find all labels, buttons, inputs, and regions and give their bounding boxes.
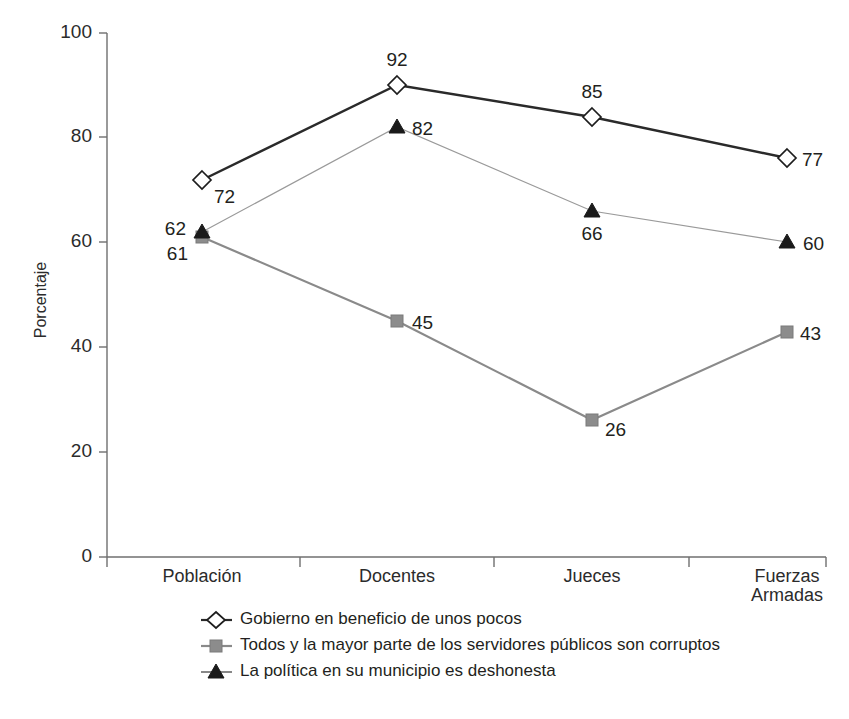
triangle-icon	[208, 664, 224, 678]
data-label-square-1: 45	[412, 312, 433, 333]
series-square-line	[202, 237, 787, 420]
y-axis: 100 80 60 40 20 0 Porcentaje	[32, 21, 107, 566]
data-label-square-2: 26	[605, 419, 626, 440]
data-label-diamond-0: 72	[214, 186, 235, 207]
x-tick-label-docentes: Docentes	[359, 566, 435, 586]
marker-diamond-3	[778, 149, 796, 167]
series-triangle	[194, 119, 795, 248]
y-tick-label-80: 80	[71, 125, 92, 146]
data-label-diamond-3: 77	[802, 149, 823, 170]
marker-triangle-1	[389, 119, 405, 133]
chart-canvas: 100 80 60 40 20 0 Porcentaje Población D…	[0, 0, 849, 719]
marker-triangle-2	[584, 203, 600, 217]
data-label-diamond-2: 85	[581, 81, 602, 102]
y-tick-label-20: 20	[71, 440, 92, 461]
line-chart: 100 80 60 40 20 0 Porcentaje Población D…	[0, 0, 849, 719]
legend-label-politica: La política en su municipio es deshonest…	[240, 661, 556, 680]
data-label-triangle-1: 82	[412, 118, 433, 139]
x-tick-label-fuerzas-armadas-line2: Armadas	[751, 585, 823, 605]
x-tick-label-jueces: Jueces	[563, 566, 620, 586]
series-diamond	[193, 76, 796, 189]
marker-diamond-1	[388, 76, 406, 94]
marker-square-1	[391, 315, 403, 327]
series-square	[196, 231, 793, 426]
data-labels: 72 92 85 77 61 45 26 43 62 82 66 60	[165, 49, 824, 440]
data-label-triangle-2: 66	[581, 223, 602, 244]
series-triangle-line	[202, 127, 787, 242]
data-label-square-0: 61	[167, 243, 188, 264]
marker-diamond-2	[583, 108, 601, 126]
legend-item-gobierno[interactable]: Gobierno en beneficio de unos pocos	[201, 609, 522, 628]
data-label-square-3: 43	[800, 323, 821, 344]
y-axis-title: Porcentaje	[32, 262, 49, 339]
y-tick-label-40: 40	[71, 335, 92, 356]
data-label-diamond-1: 92	[386, 49, 407, 70]
marker-square-2	[586, 414, 598, 426]
chart-legend: Gobierno en beneficio de unos pocos Todo…	[201, 609, 720, 680]
y-tick-label-60: 60	[71, 230, 92, 251]
x-axis: Población Docentes Jueces Fuerzas Armada…	[107, 557, 826, 605]
y-tick-label-100: 100	[60, 21, 92, 42]
legend-item-corruptos[interactable]: Todos y la mayor parte de los servidores…	[201, 635, 720, 654]
square-icon	[210, 640, 222, 652]
legend-label-corruptos: Todos y la mayor parte de los servidores…	[240, 635, 720, 654]
marker-diamond-0	[193, 171, 211, 189]
diamond-icon	[207, 612, 225, 628]
legend-item-politica[interactable]: La política en su municipio es deshonest…	[201, 661, 556, 680]
y-tick-label-0: 0	[81, 545, 92, 566]
data-label-triangle-3: 60	[803, 233, 824, 254]
x-tick-label-fuerzas-armadas-line1: Fuerzas	[754, 566, 819, 586]
x-tick-label-poblacion: Población	[162, 566, 241, 586]
legend-label-gobierno: Gobierno en beneficio de unos pocos	[240, 609, 522, 628]
series-diamond-line	[202, 85, 787, 180]
data-label-triangle-0: 62	[165, 218, 186, 239]
marker-square-3	[781, 326, 793, 338]
